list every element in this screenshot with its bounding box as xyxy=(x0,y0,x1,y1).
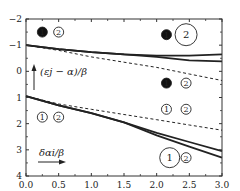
open-orbital-2-icon: 2 xyxy=(175,24,197,46)
series-layer xyxy=(26,45,222,158)
svg-text:1: 1 xyxy=(40,28,45,37)
x-axis-label: δαi/β xyxy=(39,147,64,158)
up-arrowhead-icon xyxy=(32,64,37,71)
open-orbital-2-icon: 2 xyxy=(54,112,64,122)
svg-text:2: 2 xyxy=(184,105,189,114)
x-tick-label: 3.0 xyxy=(215,180,230,190)
open-orbital-2-icon: 2 xyxy=(181,78,191,88)
x-tick-label: 1.5 xyxy=(117,180,132,190)
open-orbital-2-icon: 2 xyxy=(54,27,64,37)
y-tick-label: −1 xyxy=(9,40,22,50)
svg-text:2: 2 xyxy=(184,79,189,88)
y-tick-label: 2 xyxy=(16,119,22,129)
y-tick-label: −2 xyxy=(9,14,22,24)
y-axis-annotation: (εj − α)/β xyxy=(32,64,88,90)
x-tick-label: 0.5 xyxy=(52,180,67,190)
filled-orbital-1-icon: 1 xyxy=(161,78,171,88)
x-tick-label: 0.0 xyxy=(19,180,34,190)
open-orbital-1-icon: 1 xyxy=(160,148,180,168)
filled-orbital-1-icon: 1 xyxy=(37,27,47,37)
x-tick-label: 2.0 xyxy=(150,180,165,190)
x-axis-annotation: δαi/β xyxy=(38,147,66,165)
svg-text:1: 1 xyxy=(164,31,169,40)
x-tick-label: 1.0 xyxy=(84,180,99,190)
y-tick-label: 4 xyxy=(16,171,22,181)
svg-text:1: 1 xyxy=(164,79,169,88)
svg-text:2: 2 xyxy=(56,28,61,37)
tick-layer: 0.00.51.01.52.02.53.0−2−101234 xyxy=(9,14,230,190)
x-tick-label: 2.5 xyxy=(182,180,197,190)
svg-text:1: 1 xyxy=(40,113,45,122)
filled-orbital-1-icon: 1 xyxy=(161,30,171,40)
open-orbital-1-icon: 1 xyxy=(37,112,47,122)
open-orbital-2-icon: 2 xyxy=(181,104,191,114)
y-axis-label: (εj − α)/β xyxy=(40,66,87,77)
svg-text:2: 2 xyxy=(184,154,189,163)
right-arrowhead-icon xyxy=(59,160,66,165)
energy-level-chart: 121212121212 0.00.51.01.52.02.53.0−2−101… xyxy=(0,0,240,191)
svg-text:1: 1 xyxy=(167,152,173,163)
svg-text:2: 2 xyxy=(56,113,61,122)
y-tick-label: 0 xyxy=(16,66,22,76)
y-tick-label: 3 xyxy=(16,145,22,155)
open-orbital-1-icon: 1 xyxy=(161,104,171,114)
svg-text:2: 2 xyxy=(183,29,189,40)
svg-text:1: 1 xyxy=(164,105,169,114)
upper-solid-b-line xyxy=(26,45,222,61)
open-orbital-2-icon: 2 xyxy=(181,153,191,163)
y-tick-label: 1 xyxy=(16,93,22,103)
